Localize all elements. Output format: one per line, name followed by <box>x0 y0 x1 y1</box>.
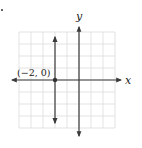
point-label: (−2, 0) <box>17 67 51 78</box>
point-neg2-0 <box>53 78 57 82</box>
coordinate-plane: y x (−2, 0) <box>0 0 142 148</box>
stray-dot <box>1 9 3 11</box>
x-axis-label: x <box>125 74 132 87</box>
y-axis-label: y <box>75 10 83 23</box>
